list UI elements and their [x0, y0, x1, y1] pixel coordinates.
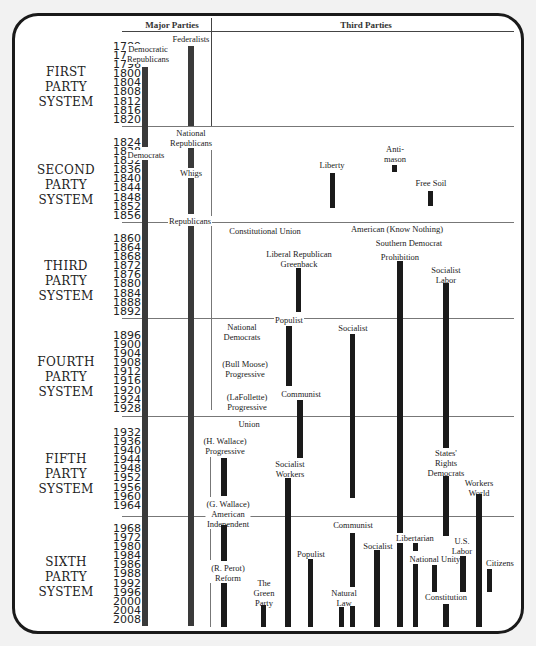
label-whigs: Whigs — [179, 168, 203, 178]
label-green-party: The Green Party — [253, 578, 276, 608]
label-republicans: Republicans — [168, 216, 212, 226]
label-liberty: Liberty — [318, 160, 345, 170]
divider-segment — [210, 457, 211, 497]
label-us-labor: U.S. Labor — [451, 536, 473, 556]
bar-antimason — [392, 165, 397, 172]
bar-national-unity — [432, 565, 437, 593]
label-natural-law: Natural Law — [330, 588, 358, 608]
label-communist-1: Communist — [280, 389, 322, 399]
bar-populist-1 — [286, 326, 292, 386]
bar-libertarian-top — [413, 543, 418, 551]
bar-populist-2 — [308, 559, 313, 627]
bar-greenback — [296, 268, 301, 312]
third-parties-header: Third Parties — [340, 20, 392, 30]
label-national-democrats: National Democrats — [223, 322, 262, 342]
label-antimason: Anti- mason — [383, 144, 407, 164]
label-socialist-1: Socialist — [337, 323, 368, 333]
divider-segment — [211, 150, 212, 218]
label-liberal-republican-greenback: Liberal Republican Greenback — [265, 249, 332, 269]
label-know-nothing: American (Know Nothing) — [350, 224, 444, 234]
bar-green-party — [261, 605, 266, 627]
party-systems-diagram: Major Parties Third Parties FIRST PARTY … — [0, 0, 536, 646]
label-populist-1: Populist — [274, 315, 304, 325]
bar-us-labor — [460, 556, 466, 592]
label-democrats: Democrats — [127, 150, 166, 160]
bar-socialist-workers — [285, 478, 291, 627]
label-citizens: Citizens — [485, 558, 515, 568]
label-democratic-republicans: Democratic Republicans — [126, 44, 170, 64]
bar-democratic-republicans — [142, 67, 148, 147]
bar-workers-world — [476, 494, 482, 627]
bar-federalists — [188, 46, 194, 126]
label-states-rights-democrats: States' Rights Democrats — [427, 448, 466, 478]
bar-socialist-1 — [350, 334, 355, 498]
label-southern-democrat: Southern Democrat — [375, 238, 443, 248]
label-populist-2: Populist — [296, 549, 326, 559]
bar-citizens — [487, 569, 492, 592]
header-underline — [122, 31, 514, 32]
era-separator-5 — [122, 516, 514, 517]
era-separator-3 — [122, 318, 514, 319]
major-parties-header: Major Parties — [145, 20, 199, 30]
era-separator-4 — [122, 416, 514, 417]
bar-whigs — [188, 158, 194, 214]
bar-national-republicans — [188, 148, 194, 158]
column-divider — [211, 18, 212, 126]
bar-republicans — [188, 218, 194, 626]
bar-american-independent — [221, 525, 227, 561]
label-national-republicans: National Republicans — [169, 128, 213, 148]
label-socialist-workers: Socialist Workers — [274, 459, 305, 479]
label-g-wallace-american-independent: (G. Wallace) American Independent — [205, 499, 250, 529]
bar-h-wallace-progressive — [221, 458, 227, 496]
era-label-third: THIRD PARTY SYSTEM — [22, 259, 110, 304]
era-label-fourth: FOURTH PARTY SYSTEM — [22, 355, 110, 400]
label-constitutional-union: Constitutional Union — [228, 226, 302, 236]
bar-natural-law-2 — [350, 606, 355, 627]
era-label-first: FIRST PARTY SYSTEM — [22, 65, 110, 110]
divider-segment — [211, 226, 212, 410]
bar-constitution — [443, 604, 449, 627]
bar-natural-law-1 — [339, 607, 344, 627]
bar-prohibition — [397, 261, 403, 627]
bar-perot-reform — [221, 583, 227, 627]
era-separator-1 — [122, 126, 514, 127]
divider-segment — [210, 524, 211, 560]
era-label-second: SECOND PARTY SYSTEM — [22, 163, 110, 208]
divider-segment — [210, 583, 211, 627]
label-libertarian: Libertarian — [395, 533, 435, 543]
bar-states-rights-democrats — [443, 476, 449, 536]
label-lafollette-progressive: (LaFollette) Progressive — [226, 392, 269, 412]
bar-communist-2 — [350, 533, 355, 587]
label-bull-moose-progressive: (Bull Moose) Progressive — [221, 359, 269, 379]
label-socialist-labor: Socialist Labor — [430, 265, 461, 285]
label-h-wallace-progressive: (H. Wallace) Progressive — [202, 436, 247, 456]
bar-communist-1 — [297, 400, 303, 458]
label-communist-2: Communist — [332, 520, 374, 530]
era-label-fifth: FIFTH PARTY SYSTEM — [22, 452, 110, 497]
label-union: Union — [237, 419, 260, 429]
bar-libertarian — [413, 564, 418, 627]
bar-liberty — [330, 173, 335, 208]
label-constitution: Constitution — [424, 592, 468, 602]
bar-democrats — [142, 160, 148, 626]
bar-socialist-2 — [374, 550, 380, 627]
label-free-soil: Free Soil — [415, 178, 448, 188]
label-perot-reform: (R. Perot) Reform — [210, 563, 246, 583]
bar-free-soil — [428, 191, 433, 206]
label-federalists: Federalists — [172, 34, 211, 44]
era-label-sixth: SIXTH PARTY SYSTEM — [22, 555, 110, 600]
